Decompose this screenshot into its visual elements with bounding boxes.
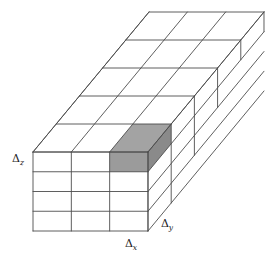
highlighted-control-volume bbox=[110, 124, 172, 172]
delta-x-label: Δx bbox=[125, 237, 138, 252]
grid-lines bbox=[33, 12, 264, 231]
delta-z-label: Δz bbox=[12, 152, 24, 167]
figure-root: Δz Δx Δy bbox=[0, 0, 279, 261]
grid-diagram: Δz Δx Δy bbox=[0, 0, 279, 261]
delta-y-label: Δy bbox=[161, 217, 174, 232]
